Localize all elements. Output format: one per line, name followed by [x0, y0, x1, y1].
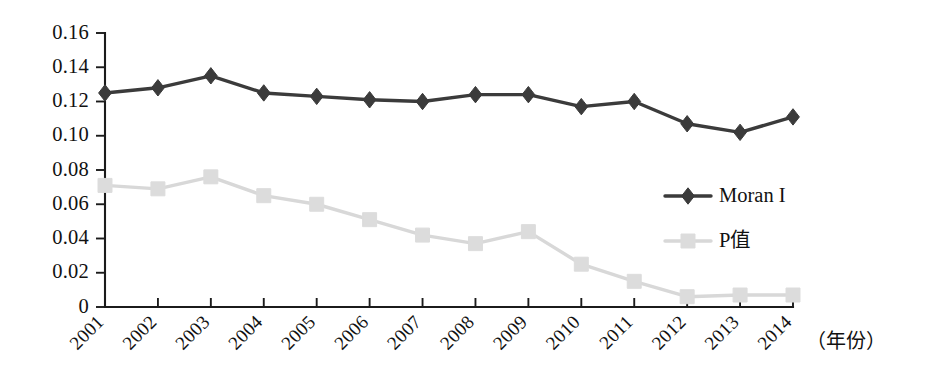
legend-marker-square-icon — [681, 234, 695, 248]
data-point-marker — [257, 85, 270, 101]
data-point-marker — [416, 93, 429, 109]
x-axis-tick-label: 2001 — [65, 311, 108, 354]
x-axis-tick-label: 2002 — [118, 311, 161, 354]
x-axis-tick-label: 2006 — [330, 311, 373, 354]
data-point-marker — [734, 124, 747, 140]
data-point-marker — [363, 213, 377, 227]
data-point-marker — [574, 257, 588, 271]
x-axis-tick-label: 2004 — [224, 311, 267, 354]
x-axis-tick-label: 2008 — [436, 311, 479, 354]
data-point-marker — [468, 237, 482, 251]
x-axis-tick-label: 2007 — [383, 311, 426, 354]
x-axis-tick-label: 2011 — [595, 311, 637, 353]
data-point-marker — [310, 197, 324, 211]
data-point-marker — [786, 288, 800, 302]
data-point-marker — [152, 80, 165, 96]
data-point-marker — [257, 189, 271, 203]
y-axis-tick-label: 0.02 — [52, 260, 89, 282]
data-point-marker — [733, 288, 747, 302]
x-axis-tick-label: 2013 — [700, 311, 743, 354]
y-axis-tick-label: 0.12 — [52, 89, 89, 111]
data-point-marker — [363, 92, 376, 108]
y-axis-tick-label: 0.08 — [52, 158, 89, 180]
chart-container: 00.020.040.060.080.100.120.140.16 200120… — [0, 0, 929, 378]
data-point-marker — [787, 109, 800, 125]
chart-series-group — [98, 68, 800, 304]
series-moran-i — [99, 68, 800, 141]
x-axis-tick-label: 2009 — [489, 311, 532, 354]
y-axis-tick-label: 0.14 — [52, 55, 89, 77]
legend-item-moran-i[interactable]: Moran I — [665, 184, 786, 206]
x-axis-tick-label: 2005 — [277, 311, 320, 354]
data-point-marker — [627, 274, 641, 288]
data-point-marker — [416, 228, 430, 242]
data-point-marker — [575, 98, 588, 114]
data-point-marker — [204, 170, 218, 184]
data-point-marker — [628, 93, 641, 109]
data-point-marker — [98, 178, 112, 192]
data-point-marker — [151, 182, 165, 196]
data-point-marker — [681, 116, 694, 132]
y-axis: 00.020.040.060.080.100.120.140.16 — [52, 21, 105, 317]
legend-label: Moran I — [719, 184, 786, 206]
x-axis-tick-label: 2012 — [647, 311, 690, 354]
x-axis-tick-label: 2014 — [753, 311, 796, 354]
legend-label: P值 — [719, 229, 750, 251]
x-axis-tick-label: 2003 — [171, 311, 214, 354]
data-point-marker — [521, 225, 535, 239]
x-axis: 2001200220032004200520062007200820092010… — [65, 298, 796, 354]
legend-marker-diamond-icon — [682, 188, 695, 204]
data-point-marker — [680, 290, 694, 304]
y-axis-tick-label: 0.06 — [52, 192, 89, 214]
data-point-marker — [204, 68, 217, 84]
y-axis-tick-label: 0.04 — [52, 226, 89, 248]
y-axis-tick-label: 0.16 — [52, 21, 89, 43]
chart-legend: Moran IP值 — [665, 184, 786, 251]
data-point-marker — [310, 88, 323, 104]
data-point-marker — [99, 85, 112, 101]
x-axis-caption: （年份） — [806, 330, 886, 352]
line-chart: 00.020.040.060.080.100.120.140.16 200120… — [0, 0, 929, 378]
legend-item-p-value[interactable]: P值 — [665, 229, 750, 251]
data-point-marker — [522, 86, 535, 102]
y-axis-tick-label: 0.10 — [52, 123, 89, 145]
data-point-marker — [469, 86, 482, 102]
y-axis-tick-label: 0 — [79, 295, 89, 317]
x-axis-tick-label: 2010 — [542, 311, 585, 354]
